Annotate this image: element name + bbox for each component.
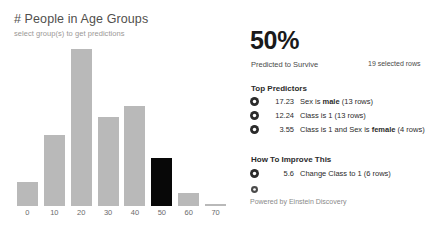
improvements-list: 5.6Change Class to 1 (6 rows) [249, 166, 439, 180]
chart-title: # People in Age Groups [14, 12, 148, 26]
insight-description: Class is 1 and Sex is female (4 rows) [300, 125, 425, 134]
x-axis-tick: 10 [41, 208, 68, 217]
histogram-bar-slot[interactable] [202, 44, 229, 206]
insight-value: 17.23 [264, 97, 294, 106]
insight-description: Sex is male (13 rows) [300, 97, 373, 106]
top-predictors-list: 17.23Sex is male (13 rows)12.24Class is … [249, 94, 439, 136]
top-predictor-row[interactable]: 3.55Class is 1 and Sex is female (4 rows… [249, 122, 439, 136]
histogram-bar-slot[interactable] [95, 44, 122, 206]
histogram-bar-slot[interactable] [68, 44, 95, 206]
insight-bullet-icon [249, 168, 260, 179]
insight-description: Class is 1 (13 rows) [300, 111, 366, 120]
x-axis-tick: 0 [14, 208, 41, 217]
einstein-discovery-widget: # People in Age Groups select group(s) t… [0, 0, 444, 236]
chart-subtitle: select group(s) to get predictions [14, 29, 125, 38]
histogram-bar[interactable] [44, 135, 65, 206]
selected-rows-count: 19 selected rows [368, 60, 421, 67]
histogram-bar-slot[interactable] [122, 44, 149, 206]
top-predictor-row[interactable]: 12.24Class is 1 (13 rows) [249, 108, 439, 122]
histogram-bar[interactable] [98, 117, 119, 206]
histogram-bars [14, 44, 229, 206]
histogram-bar[interactable] [205, 204, 226, 206]
prediction-percentage: 50% [250, 28, 299, 53]
insight-bullet-icon [249, 96, 260, 107]
insight-value: 12.24 [264, 111, 294, 120]
einstein-icon [250, 185, 259, 194]
x-axis-tick: 50 [148, 208, 175, 217]
top-predictor-row[interactable]: 17.23Sex is male (13 rows) [249, 94, 439, 108]
powered-by-label: Powered by Einstein Discovery [250, 198, 347, 205]
histogram-bar[interactable] [17, 182, 38, 206]
x-axis-tick-labels: 010203040506070 [14, 208, 229, 217]
insight-value: 3.55 [264, 125, 294, 134]
x-axis-tick: 20 [68, 208, 95, 217]
histogram-bar-selected[interactable] [151, 158, 172, 206]
insight-bullet-icon [249, 124, 260, 135]
age-group-histogram-panel: # People in Age Groups select group(s) t… [0, 0, 240, 236]
top-predictors-heading: Top Predictors [251, 84, 307, 93]
x-axis-tick: 60 [175, 208, 202, 217]
x-axis-tick: 40 [122, 208, 149, 217]
histogram-bar-slot[interactable] [14, 44, 41, 206]
improvement-row[interactable]: 5.6Change Class to 1 (6 rows) [249, 166, 439, 180]
histogram-bar-slot[interactable] [41, 44, 68, 206]
histogram-bar[interactable] [178, 193, 199, 206]
histogram-bar[interactable] [124, 106, 145, 206]
prediction-insights-panel: 50% Predicted to Survive 19 selected row… [240, 0, 444, 236]
x-axis-tick: 70 [202, 208, 229, 217]
x-axis-tick: 30 [95, 208, 122, 217]
insight-bullet-icon [249, 110, 260, 121]
histogram-bar-slot[interactable] [175, 44, 202, 206]
insight-description: Change Class to 1 (6 rows) [300, 169, 391, 178]
histogram-bar-slot[interactable] [148, 44, 175, 206]
histogram-plot-area [14, 44, 229, 206]
how-to-improve-heading: How To Improve This [251, 155, 331, 164]
insight-value: 5.6 [264, 169, 294, 178]
histogram-bar[interactable] [71, 49, 92, 206]
prediction-caption: Predicted to Survive [251, 60, 318, 69]
